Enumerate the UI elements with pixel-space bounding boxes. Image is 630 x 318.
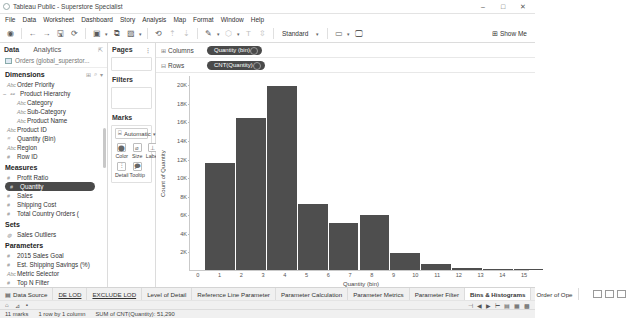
field-product-hierarchy[interactable]: − ⚯ Product Hierarchy — [0, 89, 107, 98]
field-list-scrollbar[interactable] — [103, 128, 106, 168]
field-order-priority[interactable]: Abc Order Priority — [0, 80, 107, 89]
dimensions-menu-icon[interactable]: ▾ — [100, 71, 103, 78]
collapse-icon[interactable]: − — [3, 91, 7, 97]
menu-worksheet[interactable]: Worksheet — [43, 16, 74, 23]
menu-analysis[interactable]: Analysis — [142, 16, 166, 23]
device-preview-icon[interactable]: 🖵 — [353, 28, 364, 39]
histogram-bar[interactable] — [360, 215, 391, 270]
histogram-bar[interactable] — [205, 163, 236, 270]
forward-icon[interactable]: → — [41, 28, 52, 39]
histogram-bar[interactable] — [421, 264, 452, 270]
presentation-mode-icon[interactable]: ▭ — [333, 28, 344, 39]
tab-parameter-metrics[interactable]: Parameter Metrics — [348, 288, 410, 300]
field-row-id[interactable]: # Row ID — [0, 152, 107, 161]
tab-level-of-detail[interactable]: Level of Detail — [142, 288, 192, 300]
nav-next-icon[interactable]: ▶ — [486, 302, 491, 309]
data-source-row[interactable]: Orders (global_superstor... — [0, 55, 107, 68]
param-est-shipping-savings[interactable]: # Est. Shipping Savings (%) — [0, 260, 107, 269]
columns-shelf[interactable]: ⊞ Columns Quantity (bin) — [156, 43, 535, 57]
histogram-bar[interactable] — [452, 268, 483, 270]
pin-icon[interactable]: ⇱ — [98, 46, 103, 53]
rows-shelf[interactable]: ⊟ Rows CNT(Quantity) — [156, 58, 535, 72]
histogram-bar[interactable] — [236, 118, 267, 270]
field-product-id[interactable]: Abc Product ID — [0, 125, 107, 134]
field-quantity-bin[interactable]: ⌗ Quantity (Bin) — [0, 134, 107, 143]
new-worksheet-icon[interactable]: ▣ — [91, 28, 102, 39]
field-product-name[interactable]: Abc Product Name — [0, 116, 107, 125]
menu-dashboard[interactable]: Dashboard — [81, 16, 113, 23]
plot-area[interactable] — [189, 76, 529, 271]
menu-data[interactable]: Data — [22, 16, 36, 23]
tab-order-of-operations[interactable]: Order of Ope — [531, 288, 578, 300]
presentation-caret-icon[interactable]: ▾ — [347, 31, 350, 37]
sort-descending-icon[interactable]: ⇣ — [181, 28, 192, 39]
show-sheet-list-icon[interactable]: ▤ — [504, 302, 510, 309]
menu-map[interactable]: Map — [173, 16, 186, 23]
menu-window[interactable]: Window — [221, 16, 244, 23]
sort-ascending-icon[interactable]: ⇡ — [167, 28, 178, 39]
group-caret-icon[interactable]: ▾ — [237, 31, 240, 37]
histogram-bar[interactable] — [298, 204, 329, 271]
clear-sheet-caret-icon[interactable]: ▾ — [139, 31, 142, 37]
new-worksheet-caret-icon[interactable]: ▾ — [105, 31, 108, 37]
tab-parameter-calculation[interactable]: Parameter Calculation — [276, 288, 348, 300]
menu-help[interactable]: Help — [251, 16, 264, 23]
fix-axes-icon[interactable]: ⇳ — [257, 28, 268, 39]
maximize-button[interactable]: □ — [498, 2, 508, 12]
highlight-caret-icon[interactable]: ▾ — [217, 31, 220, 37]
field-region[interactable]: Abc Region — [0, 143, 107, 152]
search-fields-icon[interactable]: ⌕ — [94, 71, 97, 78]
field-sales-outliers[interactable]: ◍ Sales Outliers — [0, 230, 107, 239]
tab-exclude-lod[interactable]: EXCLUDE LOD — [87, 288, 142, 300]
menu-story[interactable]: Story — [120, 16, 135, 23]
param-2015-sales-goal[interactable]: # 2015 Sales Goal — [0, 251, 107, 260]
field-sub-category[interactable]: Abc Sub-Category — [0, 107, 107, 116]
field-total-country-orders[interactable]: # Total Country Orders ( — [0, 209, 107, 218]
menu-file[interactable]: File — [5, 16, 15, 23]
show-filmstrip-icon[interactable]: ▦ — [514, 302, 520, 309]
minimize-button[interactable]: – — [478, 2, 488, 12]
fit-selector[interactable]: Standard ▾ — [279, 29, 322, 38]
histogram-bar[interactable] — [267, 86, 298, 270]
field-profit-ratio[interactable]: # Profit Ratio — [0, 173, 107, 182]
nav-first-icon[interactable]: ⊣ — [468, 302, 473, 309]
filters-shelf[interactable] — [111, 87, 152, 109]
nav-prev-icon[interactable]: ◀ — [477, 302, 482, 309]
refresh-data-source-icon[interactable]: ⟳ — [69, 28, 80, 39]
show-mark-labels-icon[interactable]: T — [243, 28, 254, 39]
close-button[interactable]: ✕ — [518, 2, 528, 12]
group-members-icon[interactable]: ⬡ — [223, 28, 234, 39]
new-story-tab-icon[interactable] — [617, 290, 626, 298]
nav-last-icon[interactable]: ⊢ — [495, 302, 500, 309]
histogram-bar[interactable] — [390, 253, 421, 270]
duplicate-sheet-icon[interactable]: ⧉ — [111, 28, 122, 39]
field-sales[interactable]: # Sales — [0, 191, 107, 200]
pages-shelf[interactable] — [111, 57, 152, 71]
show-sheet-sorter-icon[interactable]: ▩ — [524, 302, 530, 309]
tableau-logo-icon[interactable]: ◉ — [5, 28, 16, 39]
back-icon[interactable]: ← — [27, 28, 38, 39]
sheet-sort-icon[interactable]: ⊿ — [15, 302, 20, 309]
tab-data[interactable]: Data — [4, 46, 19, 53]
marks-tooltip-button[interactable]: 🗩 Tooltip — [130, 162, 145, 178]
pill-cnt-quantity[interactable]: CNT(Quantity) — [207, 61, 265, 70]
tab-de-lod[interactable]: DE LOD — [53, 288, 87, 300]
clear-sheet-icon[interactable]: ▨ — [125, 28, 136, 39]
tab-bins-and-histograms[interactable]: Bins & Histograms — [465, 288, 531, 300]
field-shipping-cost[interactable]: # Shipping Cost — [0, 200, 107, 209]
marks-detail-button[interactable]: ⫶ Detail — [115, 162, 129, 178]
tab-data-source[interactable]: ▤ Data Source — [0, 288, 53, 300]
marks-color-button[interactable]: ⬤ Color — [115, 143, 129, 159]
mark-type-dropdown[interactable]: ⌸ Automatic ▾ — [115, 128, 148, 139]
show-me-button[interactable]: ⊞ Show Me — [492, 30, 530, 38]
histogram-bar[interactable] — [329, 223, 360, 270]
param-top-n-filter[interactable]: # Top N Filter — [0, 278, 107, 287]
pill-quantity-bin[interactable]: Quantity (bin) — [207, 46, 262, 55]
param-metric-selector[interactable]: Abc Metric Selector — [0, 269, 107, 278]
field-quantity[interactable]: # Quantity — [5, 182, 95, 191]
histogram-bar[interactable] — [483, 269, 514, 270]
new-worksheet-tab-icon[interactable] — [593, 290, 602, 298]
menu-format[interactable]: Format — [193, 16, 214, 23]
save-icon[interactable]: 🖫 — [55, 28, 66, 39]
new-dashboard-tab-icon[interactable] — [605, 290, 614, 298]
